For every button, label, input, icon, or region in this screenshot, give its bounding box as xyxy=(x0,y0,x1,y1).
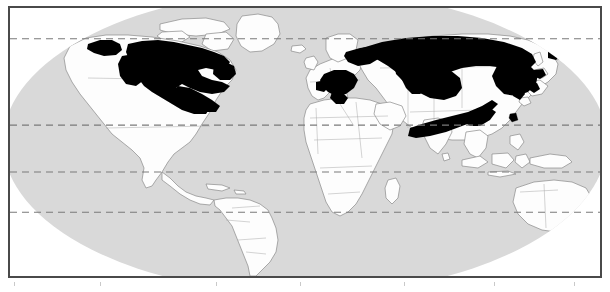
footer-tick xyxy=(574,282,575,286)
footer-tick xyxy=(300,282,301,286)
footer-tick xyxy=(100,282,101,286)
footer-tick xyxy=(216,282,217,286)
map-frame xyxy=(8,6,602,278)
footer-tick-strip xyxy=(8,280,602,290)
world-map-svg xyxy=(10,8,600,276)
footer-tick xyxy=(404,282,405,286)
footer-tick xyxy=(14,282,15,286)
footer-tick xyxy=(494,282,495,286)
distribution-map-figure xyxy=(0,0,610,292)
